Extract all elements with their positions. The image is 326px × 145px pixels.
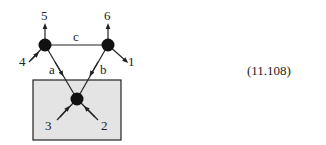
- label-4: 4: [19, 54, 26, 69]
- arrow-4-icon: [31, 54, 37, 60]
- label-1: 1: [128, 54, 135, 69]
- label-b: b: [100, 62, 107, 77]
- label-c: c: [73, 29, 79, 44]
- label-a: a: [49, 62, 55, 77]
- vertex-top-left: [39, 39, 52, 52]
- arrow-b-icon: [91, 62, 98, 74]
- label-6: 6: [104, 8, 111, 23]
- vertex-bottom: [71, 93, 84, 106]
- label-2: 2: [101, 118, 108, 133]
- vertex-top-right: [102, 39, 115, 52]
- label-5: 5: [41, 8, 48, 23]
- equation-number: (11.108): [247, 63, 291, 79]
- arrow-a-icon: [55, 62, 62, 74]
- label-3: 3: [45, 118, 52, 133]
